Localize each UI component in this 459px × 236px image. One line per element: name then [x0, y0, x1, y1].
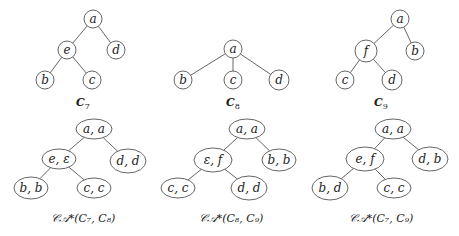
tree-caption: 𝒞𝒜*(C₈, C₉) [199, 212, 264, 225]
tree-edge [103, 138, 117, 152]
tree-edge [341, 169, 353, 179]
node-label: c [230, 73, 237, 87]
tree-node: f [355, 40, 377, 62]
tree-node: b [174, 71, 192, 89]
tree-edge [256, 138, 270, 151]
tree-node: d [382, 70, 402, 90]
tree-edge [40, 168, 51, 179]
node-label: d, d [238, 181, 261, 195]
node-label: c, c [83, 181, 104, 195]
tree-node: c, c [161, 178, 195, 198]
tree-edge [404, 27, 411, 43]
tree-caption: 𝒞𝒜*(C₇, C₉) [349, 212, 414, 225]
tree-node: d, d [110, 149, 146, 173]
node-label: b, d [319, 181, 342, 195]
tree-edge [224, 138, 238, 151]
tree-edge [374, 25, 393, 43]
tree-node: e [58, 41, 76, 59]
tree-C8: abcdC8 [174, 40, 289, 111]
tree-node: ε, f [194, 148, 232, 172]
tree-edge [98, 26, 110, 43]
node-label: d [275, 73, 283, 87]
tree-node: a [224, 40, 242, 58]
node-label: b [179, 73, 187, 87]
node-label: c [89, 73, 96, 87]
tree-edge [375, 138, 385, 149]
tree-node: b, b [262, 149, 296, 171]
tree-C7: aedbcC7 [36, 10, 125, 111]
tree-node: c, c [77, 178, 111, 198]
node-label: ε, f [204, 153, 225, 167]
tree-C9: afbcdC9 [336, 10, 424, 111]
tree-CA_C7_C8: a, ae, εd, db, bc, c𝒞𝒜*(C₇, C₈) [14, 119, 146, 225]
tree-node: b, b [14, 177, 48, 199]
tree-edge [240, 54, 270, 74]
tree-edge [373, 59, 385, 72]
tree-edge [375, 169, 385, 179]
tree-edge [73, 26, 87, 43]
node-label: e, ε [48, 152, 69, 166]
tree-node: c [224, 71, 242, 89]
tree-CA_C7_C9: a, ae, fd, bb, dc, c𝒞𝒜*(C₇, C₉) [312, 119, 448, 225]
tree-node: c [83, 71, 101, 89]
node-label: d, b [419, 152, 442, 166]
node-label: c, c [167, 181, 188, 195]
node-label: b, b [268, 153, 291, 167]
tree-node: d [107, 41, 125, 59]
tree-edge [403, 137, 418, 149]
tree-caption: C7 [76, 96, 90, 111]
node-label: a [229, 42, 236, 56]
tree-node: b [36, 71, 54, 89]
tree-node: b [406, 42, 424, 60]
node-label: c [342, 73, 349, 87]
tree-edge [73, 57, 86, 73]
node-label: a [89, 12, 96, 26]
node-label: b [41, 73, 49, 87]
tree-node: a, a [375, 119, 411, 139]
tree-edge [191, 54, 226, 76]
tree-edge [69, 167, 84, 180]
tree-caption: C9 [374, 96, 388, 111]
tree-diagram: aedbcC7abcdC8afbcdC9a, ae, εd, db, bc, c… [0, 0, 459, 236]
tree-node: a, a [76, 119, 112, 139]
node-label: d [112, 43, 120, 57]
node-label: d, d [117, 154, 140, 168]
tree-node: d [269, 70, 289, 90]
tree-CA_C8_C9: a, aε, fb, bc, cd, d𝒞𝒜*(C₈, C₉) [161, 119, 296, 225]
tree-edge [50, 57, 61, 72]
tree-edge [69, 137, 85, 150]
tree-caption: C8 [226, 96, 240, 111]
tree-node: d, d [231, 176, 267, 200]
node-label: a, a [83, 122, 105, 136]
tree-caption: 𝒞𝒜*(C₇, C₈) [51, 212, 116, 225]
tree-edge [188, 169, 201, 180]
tree-node: a, a [229, 119, 265, 139]
tree-node: e, f [346, 147, 384, 171]
tree-node: d, b [412, 147, 448, 171]
tree-edge [225, 169, 237, 179]
node-label: b, b [20, 181, 43, 195]
node-label: c, c [383, 181, 404, 195]
node-label: b [411, 44, 419, 58]
node-label: a [396, 12, 403, 26]
tree-node: c, c [377, 178, 411, 198]
node-label: a, a [236, 122, 258, 136]
tree-node: a [391, 10, 409, 28]
node-label: e, f [355, 152, 377, 166]
tree-node: e, ε [42, 149, 76, 169]
tree-node: b, d [312, 176, 348, 200]
tree-node: c [336, 71, 354, 89]
node-label: e [63, 43, 70, 57]
tree-edge [350, 60, 359, 73]
node-label: a, a [382, 122, 404, 136]
node-label: d [388, 73, 396, 87]
tree-node: a [84, 10, 102, 28]
